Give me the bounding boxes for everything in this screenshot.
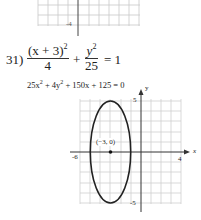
x-axis-label: x bbox=[193, 147, 196, 155]
y-axis-label: y bbox=[145, 84, 149, 92]
center-point bbox=[109, 150, 113, 154]
tick-y-min: -5 bbox=[130, 199, 136, 207]
tick-x-max: 4 bbox=[178, 155, 182, 163]
y-axis-arrow-icon bbox=[139, 89, 144, 95]
x-axis-arrow-icon bbox=[184, 150, 190, 155]
center-label: (−3, 0) bbox=[96, 138, 115, 146]
tick-x-min: -6 bbox=[72, 153, 78, 161]
ellipse-graph bbox=[0, 0, 201, 220]
tick-y-max: 5 bbox=[133, 96, 137, 104]
